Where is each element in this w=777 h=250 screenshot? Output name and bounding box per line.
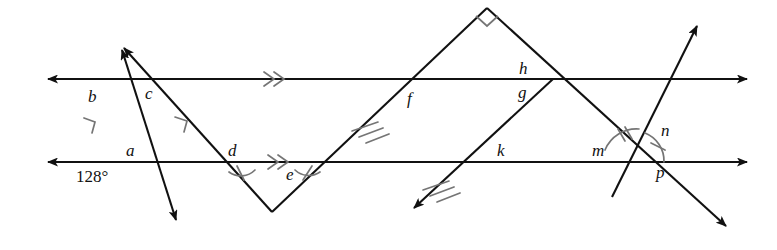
- right-angle-square-apex: [476, 16, 498, 26]
- label-b: b: [88, 88, 97, 105]
- label-e: e: [286, 166, 294, 183]
- label-p: p: [656, 164, 665, 181]
- single-chevron-mark-left-1: [84, 118, 95, 133]
- angle-measure-128: 128°: [76, 168, 108, 185]
- geometry-diagram: b c a d e f h g k m n p 128°: [0, 0, 777, 250]
- label-g: g: [518, 84, 527, 101]
- label-k: k: [497, 142, 505, 159]
- single-chevron-mark-left-2: [175, 117, 187, 132]
- label-h: h: [519, 60, 528, 77]
- label-a: a: [126, 142, 135, 159]
- transversal-lower-left-diagonal: [414, 79, 553, 208]
- triple-tick-mark-upper-diagonal: [352, 122, 389, 143]
- transversal-steep-right: [612, 26, 697, 197]
- transversal-left-2: [124, 48, 272, 212]
- zigzag-up-right-segment: [272, 8, 487, 212]
- label-f: f: [407, 90, 412, 107]
- label-n: n: [661, 122, 670, 139]
- label-c: c: [145, 85, 153, 102]
- triple-tick-mark-lower-diagonal: [423, 181, 460, 202]
- label-d: d: [228, 142, 237, 159]
- label-m: m: [592, 142, 604, 159]
